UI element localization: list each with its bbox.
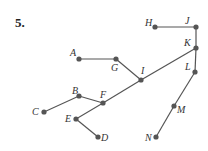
edge-f-e <box>76 103 103 119</box>
node-j <box>193 24 198 29</box>
node-i <box>138 77 143 82</box>
node-m <box>171 103 176 108</box>
node-label-n: N <box>144 132 153 143</box>
edge-l-m <box>174 72 195 106</box>
node-d <box>95 134 100 139</box>
edge-i-f <box>103 80 141 103</box>
node-l <box>192 69 197 74</box>
node-label-d: D <box>100 132 109 143</box>
node-f <box>100 100 105 105</box>
node-h <box>152 24 157 29</box>
node-label-b: B <box>72 85 78 96</box>
edge-b-c <box>44 96 79 112</box>
tree-graph: AGIHJKLMNBFCED <box>0 0 208 151</box>
node-a <box>76 56 81 61</box>
node-label-f: F <box>99 89 107 100</box>
node-label-e: E <box>64 113 71 124</box>
edge-g-i <box>116 59 141 80</box>
edge-e-d <box>76 119 98 137</box>
node-n <box>153 134 158 139</box>
node-e <box>73 116 78 121</box>
node-g <box>113 56 118 61</box>
node-k <box>193 45 198 50</box>
node-label-i: I <box>140 65 145 76</box>
node-label-a: A <box>69 47 77 58</box>
node-label-m: M <box>176 104 186 115</box>
node-label-g: G <box>111 62 118 73</box>
node-c <box>41 109 46 114</box>
node-label-l: L <box>184 61 191 72</box>
edge-k-l <box>195 48 196 72</box>
node-label-c: C <box>32 106 39 117</box>
node-label-h: H <box>144 17 153 28</box>
node-label-k: K <box>183 37 192 48</box>
node-label-j: J <box>185 15 190 26</box>
nodes-group: AGIHJKLMNBFCED <box>32 15 199 143</box>
edge-m-n <box>156 106 174 137</box>
